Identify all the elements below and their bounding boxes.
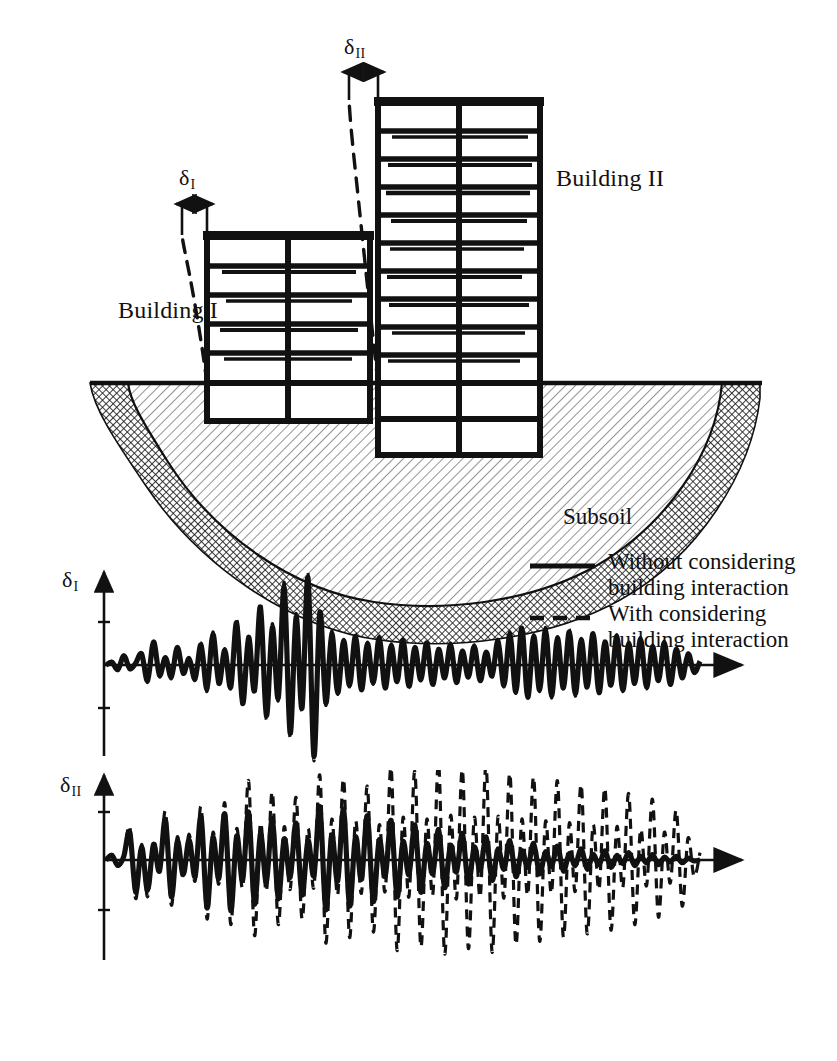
building-2-label: Building II [556, 165, 664, 192]
building-1-deflection-label: δI [179, 165, 196, 193]
building-2-deflection-dimension [343, 72, 384, 103]
building-2-basements [378, 383, 540, 455]
delta-subscript-2: II [354, 46, 365, 61]
plot-delta-1-ylabel: δI [62, 567, 79, 595]
building-2-deflection-label: δII [344, 34, 366, 62]
plot-delta-1-ylabel-subscript: I [72, 579, 78, 594]
plot-delta-2-ylabel-subscript: II [70, 784, 81, 799]
plot-delta-1-ylabel-symbol: δ [62, 567, 72, 592]
legend-entry-solid-line1: Without considering [608, 549, 796, 575]
plot-delta-2-ylabel: δII [60, 772, 82, 800]
legend-entry-solid: Without considering building interaction [608, 549, 796, 601]
delta-symbol-2: δ [344, 34, 354, 59]
plot-delta-2-ylabel-symbol: δ [60, 772, 70, 797]
delta-subscript-1: I [189, 177, 195, 192]
building-2-superstructure [374, 97, 544, 383]
plot-delta-2-traces [106, 763, 700, 954]
delta-symbol-1: δ [179, 165, 189, 190]
building-1-label: Building I [118, 297, 218, 324]
figure-canvas [0, 0, 837, 1061]
legend-entry-dashed: With considering building interaction [608, 601, 789, 653]
legend-entry-dashed-line2: building interaction [608, 627, 789, 653]
building-1-superstructure [203, 231, 374, 383]
subsoil-label: Subsoil [563, 504, 632, 530]
building-1-basement [207, 383, 370, 421]
building-1-deflection-dimension [176, 204, 213, 237]
legend-entry-solid-line2: building interaction [608, 575, 796, 601]
figure-root: Building I Building II δI δII Subsoil Wi… [0, 0, 837, 1061]
legend-entry-dashed-line1: With considering [608, 601, 789, 627]
